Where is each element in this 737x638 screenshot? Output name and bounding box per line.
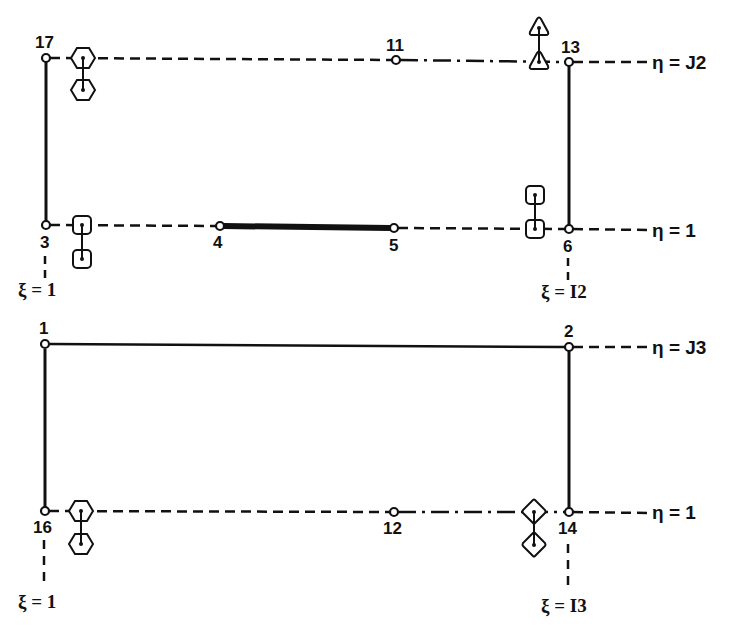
node-label-5: 5 [389, 236, 398, 255]
eta-label-1-lower: η = 1 [652, 502, 696, 523]
node-6 [565, 225, 573, 233]
eta-label-1-upper: η = 1 [652, 220, 696, 241]
node-16 [41, 507, 49, 515]
square-marker-pair-left [73, 216, 91, 268]
lower-block [41, 340, 648, 588]
node-label-4: 4 [213, 233, 223, 252]
node-label-12: 12 [383, 519, 402, 538]
node-12 [390, 508, 398, 516]
node-14 [565, 508, 573, 516]
eta-1-extension-upper [573, 229, 648, 230]
node-label-6: 6 [563, 237, 572, 256]
eta-label-j3: η = J3 [652, 337, 706, 358]
node-label-13: 13 [561, 38, 580, 57]
node-3 [42, 221, 50, 229]
node-label-2: 2 [564, 322, 573, 341]
node-label-17: 17 [35, 33, 54, 52]
xi-label-i3: ξ = I3 [541, 595, 587, 617]
node-2 [565, 343, 573, 351]
node-label-14: 14 [558, 519, 577, 538]
node-label-1: 1 [39, 319, 48, 338]
node-11 [392, 56, 400, 64]
square-marker-pair-right [526, 186, 544, 238]
node-13 [565, 58, 573, 66]
xi-label-1-upper: ξ = 1 [18, 279, 56, 301]
diagram-canvas: 17 11 13 3 4 5 6 η = J2 η = 1 ξ = 1 ξ = … [0, 0, 737, 638]
node-1 [41, 340, 49, 348]
eta-1-extension-lower [573, 512, 648, 513]
xi-label-i2: ξ = I2 [541, 281, 587, 303]
node-label-3: 3 [40, 233, 49, 252]
node-label-11: 11 [386, 36, 404, 55]
hexagon-marker-pair [71, 48, 95, 100]
node-label-16: 16 [33, 518, 52, 537]
upper-block [42, 18, 648, 285]
xi-label-1-lower: ξ = 1 [18, 591, 56, 613]
edge-16-12-dashed [49, 511, 390, 512]
edge-17-11-dashed [50, 58, 392, 60]
hexagon-marker-pair-lower [69, 501, 93, 554]
edge-1-2 [50, 344, 565, 347]
node-17 [42, 54, 50, 62]
diamond-marker-pair [523, 500, 546, 557]
eta-label-j2: η = J2 [652, 52, 706, 73]
node-5 [390, 224, 398, 232]
triangle-marker-pair [530, 18, 549, 70]
edge-4-5-thick [224, 226, 390, 228]
node-4 [216, 222, 224, 230]
